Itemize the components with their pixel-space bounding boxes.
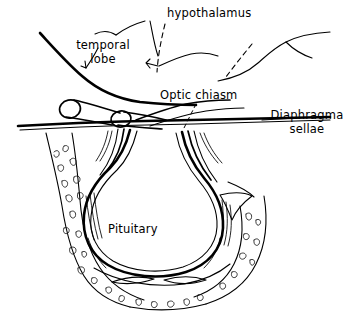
hypothalamus-dashed-leader-right (226, 44, 252, 77)
label-diaphragma-sellae: Diaphragma sellae (265, 108, 349, 136)
label-temporal-lobe-line1: temporal (67, 38, 139, 52)
label-optic-chiasm: Optic chiasm (160, 88, 237, 102)
pituitary-dural-lining (91, 131, 217, 271)
hypothalamus-floor-tick (146, 59, 158, 68)
label-diaphragma-sellae-line1: Diaphragma (265, 108, 349, 122)
brain-contour-far-right (286, 42, 312, 58)
infundibulum-right-wall-inner (194, 131, 217, 182)
brainstem-contour-right (218, 32, 330, 81)
temporal-sulcus-mark (95, 31, 116, 35)
cancellous-bone-texture-right (220, 213, 261, 289)
hypothalamus-floor-contour (159, 53, 218, 66)
label-temporal-lobe-line2: lobe (67, 52, 139, 66)
label-pituitary: Pituitary (108, 222, 158, 236)
sella-bone-floor-outer (130, 304, 206, 310)
posterior-clinoid-process (220, 193, 252, 220)
anatomy-line-art (0, 0, 352, 317)
temporal-sulcus-mark-2 (116, 21, 145, 35)
label-diaphragma-sellae-line2: sellae (265, 122, 349, 136)
sella-bone-right-inner (194, 206, 242, 297)
pituitary-diagram: hypothalamus temporal lobe Optic chiasm … (0, 0, 352, 317)
label-temporal-lobe: temporal lobe (67, 38, 139, 66)
cancellous-bone-texture-bottom (119, 294, 203, 307)
hypothalamus-contour (150, 21, 158, 56)
label-hypothalamus: hypothalamus (167, 6, 251, 20)
